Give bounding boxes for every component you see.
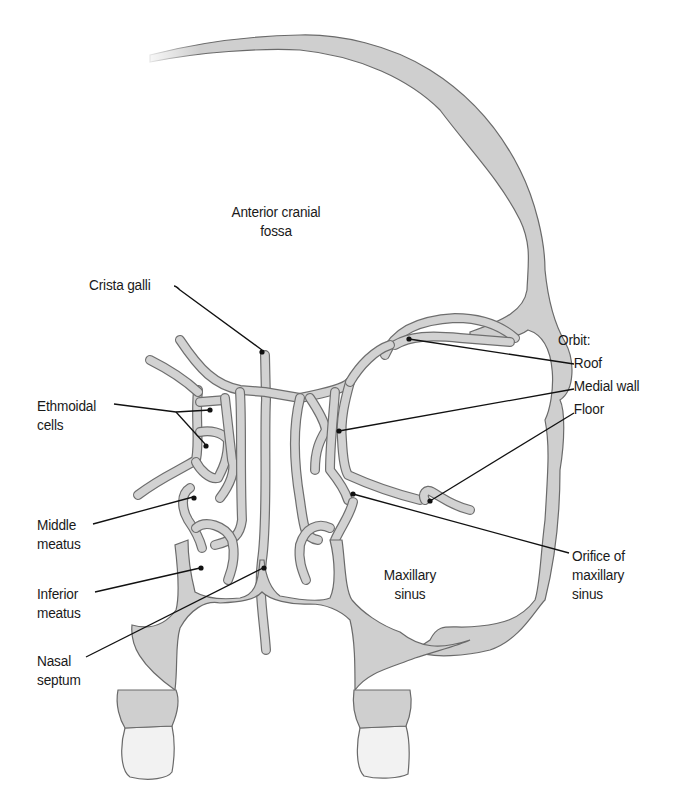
label-line: Inferior — [37, 584, 81, 603]
label-line: Anterior cranial — [220, 202, 333, 221]
label-line: Nasal — [37, 651, 81, 670]
label-maxillary-sinus: Maxillary sinus — [375, 565, 445, 603]
orbit-roof — [385, 318, 515, 355]
label-ethmoidal-cells: Ethmoidal cells — [37, 396, 96, 434]
label-line: fossa — [220, 221, 333, 240]
label-orbit-roof: Roof — [558, 353, 639, 372]
label-orbit: Orbit: Roof Medial wall Floor — [558, 330, 639, 418]
label-line: Crista galli — [89, 275, 151, 294]
label-line: Ethmoidal — [37, 396, 96, 415]
label-line: Orifice of — [572, 546, 625, 565]
label-line: meatus — [37, 534, 81, 553]
label-anterior-cranial-fossa: Anterior cranial fossa — [220, 202, 333, 240]
label-middle-meatus: Middle meatus — [37, 515, 81, 553]
label-nasal-septum: Nasal septum — [37, 651, 81, 689]
label-inferior-meatus: Inferior meatus — [37, 584, 81, 622]
left-tooth-crown — [122, 726, 175, 779]
label-orbit-floor: Floor — [558, 399, 639, 418]
label-line: maxillary — [572, 565, 625, 584]
maxilla — [110, 524, 470, 779]
label-line: septum — [37, 670, 81, 689]
label-line: Maxillary — [375, 565, 445, 584]
label-line: cells — [37, 415, 96, 434]
label-line: meatus — [37, 603, 81, 622]
label-crista-galli: Crista galli — [89, 275, 151, 294]
label-orifice-of-maxillary-sinus: Orifice of maxillary sinus — [572, 546, 625, 603]
orbit-heading: Orbit: — [558, 330, 639, 349]
label-line: Middle — [37, 515, 81, 534]
label-line: sinus — [572, 584, 625, 603]
label-line: sinus — [375, 584, 445, 603]
label-orbit-medial-wall: Medial wall — [558, 376, 639, 395]
right-tooth-crown — [357, 726, 409, 778]
